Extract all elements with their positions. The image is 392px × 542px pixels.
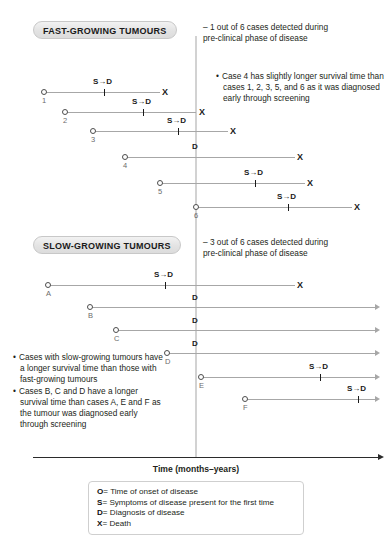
fast-bullet-list: Case 4 has slightly longer survival time… xyxy=(216,71,388,105)
ongoing-arrow-F xyxy=(375,396,380,402)
ongoing-arrow-D xyxy=(375,350,380,356)
diagnosis-tick-A xyxy=(165,282,166,289)
diagnosis-label-1: S→D xyxy=(93,78,112,86)
timeline-line-A xyxy=(48,285,295,286)
ongoing-arrow-C xyxy=(375,327,380,333)
legend-text-O: Time of onset of disease xyxy=(110,487,198,496)
legend-text-X: Death xyxy=(109,519,131,528)
timeline-line-B xyxy=(90,307,375,308)
timeline-line-D xyxy=(167,353,375,354)
death-marker-2: X xyxy=(199,108,205,117)
timeline-line-C xyxy=(116,330,375,331)
onset-marker-4 xyxy=(122,154,128,160)
diagnosis-label-5: S→D xyxy=(244,169,263,177)
diagnosis-tick-6 xyxy=(288,204,289,211)
onset-marker-C xyxy=(113,327,119,333)
fast-bullet-1: Case 4 has slightly longer survival time… xyxy=(216,71,388,105)
diagnosis-tick-2 xyxy=(143,109,144,116)
legend-eq-O: = xyxy=(103,487,108,496)
onset-marker-A xyxy=(45,282,51,288)
case-label-2: 2 xyxy=(63,117,67,125)
diagnosis-label-A: S→D xyxy=(154,271,173,279)
section-badge-slow: SLOW-GROWING TUMOURS xyxy=(33,236,181,254)
section-note-fast: – 1 out of 6 cases detected during pre-c… xyxy=(203,22,388,44)
ongoing-arrow-B xyxy=(375,304,380,310)
diagnosis-label-6: S→D xyxy=(277,193,296,201)
case-label-C: C xyxy=(114,335,119,343)
case-label-A: A xyxy=(46,290,51,298)
case-label-4: 4 xyxy=(123,162,127,170)
screening-reference-line xyxy=(195,36,197,457)
diagram-canvas: FAST-GROWING TUMOURS – 1 out of 6 cases … xyxy=(0,0,392,542)
onset-marker-6 xyxy=(193,204,199,210)
case-label-D: D xyxy=(165,358,170,366)
legend-item-death: X= Death xyxy=(97,519,296,530)
section-badge-fast: FAST-GROWING TUMOURS xyxy=(33,21,177,39)
timeline-line-1 xyxy=(44,92,160,93)
onset-marker-E xyxy=(198,374,204,380)
diagnosis-label-C: D xyxy=(192,317,198,325)
diagnosis-tick-E xyxy=(320,374,321,381)
time-axis-arrowhead xyxy=(378,454,384,460)
timeline-line-5 xyxy=(160,183,305,184)
onset-marker-2 xyxy=(62,109,68,115)
death-marker-4: X xyxy=(297,153,303,162)
diagnosis-tick-3 xyxy=(178,128,179,135)
onset-marker-5 xyxy=(157,180,163,186)
legend-eq-D: = xyxy=(103,508,108,517)
onset-marker-3 xyxy=(90,128,96,134)
section-note-slow: – 3 out of 6 cases detected during pre-c… xyxy=(203,237,388,259)
diagnosis-tick-5 xyxy=(255,180,256,187)
legend-item-symptoms: S= Symptoms of disease present for the f… xyxy=(97,498,296,509)
legend-item-diagnosis: D= Diagnosis of disease xyxy=(97,508,296,519)
time-axis-line xyxy=(33,457,380,458)
legend-eq-S: = xyxy=(102,498,107,507)
time-axis-label: Time (months–years) xyxy=(0,464,392,474)
diagnosis-label-4: D xyxy=(192,143,198,151)
diagnosis-label-F: S→D xyxy=(347,385,366,393)
diagnosis-tick-1 xyxy=(104,89,105,96)
timeline-line-2 xyxy=(65,112,196,113)
diagnosis-label-3: S→D xyxy=(167,117,186,125)
legend-item-onset: O= Time of onset of disease xyxy=(97,487,296,498)
death-marker-6: X xyxy=(354,203,360,212)
onset-marker-B xyxy=(87,304,93,310)
legend-text-D: Diagnosis of disease xyxy=(110,508,185,517)
legend-eq-X: = xyxy=(102,519,107,528)
death-marker-3: X xyxy=(230,127,236,136)
slow-bullet-1: Cases with slow-growing tumours have a l… xyxy=(13,352,165,386)
case-label-1: 1 xyxy=(42,97,46,105)
legend-box: O= Time of onset of disease S= Symptoms … xyxy=(88,481,304,535)
death-marker-5: X xyxy=(307,179,313,188)
timeline-line-E xyxy=(201,377,375,378)
case-label-6: 6 xyxy=(194,212,198,220)
legend-text-S: Symptoms of disease present for the firs… xyxy=(109,498,274,507)
timeline-line-4 xyxy=(125,157,295,158)
case-label-B: B xyxy=(88,312,93,320)
diagnosis-label-D: D xyxy=(192,340,198,348)
timeline-line-6 xyxy=(196,207,352,208)
diagnosis-label-2: S→D xyxy=(132,98,151,106)
onset-marker-F xyxy=(242,396,248,402)
ongoing-arrow-E xyxy=(375,374,380,380)
diagnosis-tick-F xyxy=(358,396,359,403)
case-label-E: E xyxy=(199,382,204,390)
case-label-5: 5 xyxy=(158,188,162,196)
diagnosis-label-E: S→D xyxy=(309,363,328,371)
timeline-line-F xyxy=(245,399,375,400)
onset-marker-1 xyxy=(41,89,47,95)
slow-bullet-2: Cases B, C and D have a longer survival … xyxy=(13,386,165,431)
diagnosis-label-B: D xyxy=(192,294,198,302)
timeline-line-3 xyxy=(93,131,228,132)
slow-bullet-list: Cases with slow-growing tumours have a l… xyxy=(13,352,165,430)
case-label-3: 3 xyxy=(91,136,95,144)
death-marker-A: X xyxy=(297,281,303,290)
death-marker-1: X xyxy=(162,88,168,97)
case-label-F: F xyxy=(243,404,248,412)
